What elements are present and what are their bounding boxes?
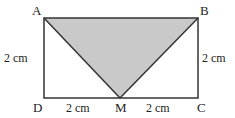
dimension-label-dm: 2 cm [66, 101, 90, 115]
vertex-label-a: A [32, 3, 42, 18]
vertex-label-m: M [115, 100, 127, 115]
shaded-triangle-abm [44, 18, 198, 98]
vertex-label-b: B [200, 3, 209, 18]
vertex-label-c: C [197, 100, 206, 115]
dimension-label-ad: 2 cm [4, 51, 28, 65]
dimension-label-mc: 2 cm [146, 101, 170, 115]
vertex-label-d: D [33, 100, 42, 115]
dimension-label-bc: 2 cm [202, 51, 226, 65]
geometry-diagram: A B D M C 2 cm 2 cm 2 cm 2 cm [0, 0, 235, 118]
